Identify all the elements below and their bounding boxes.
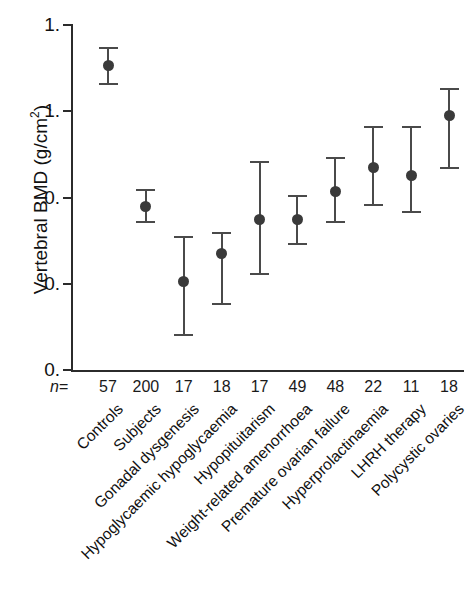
data-point-group <box>277 25 317 372</box>
error-bar-cap-lower <box>402 211 421 213</box>
error-bar-cap-lower <box>212 303 231 305</box>
y-axis-tick-label: 1. <box>44 14 60 36</box>
error-bar-cap-lower <box>250 273 269 275</box>
data-point-marker <box>330 186 341 197</box>
error-bar-cap-lower <box>99 83 118 85</box>
error-bar-cap-lower <box>174 334 193 336</box>
error-bar-cap-lower <box>326 221 345 223</box>
data-point-group <box>391 25 431 372</box>
data-series <box>71 25 464 372</box>
data-point-marker <box>444 110 455 121</box>
sample-size-value: 49 <box>289 378 307 396</box>
data-point-group <box>88 25 128 372</box>
data-point-group <box>315 25 355 372</box>
y-axis-title-superscript: 2 <box>28 111 42 118</box>
data-point-group <box>126 25 166 372</box>
sample-size-value: 17 <box>175 378 193 396</box>
data-point-marker <box>103 60 114 71</box>
data-point-marker <box>178 276 189 287</box>
data-point-group <box>202 25 242 372</box>
sample-size-value: 17 <box>251 378 269 396</box>
sample-size-row: n= 572001718174948221118 <box>0 378 471 398</box>
y-axis-tick-label: 0. <box>44 273 60 295</box>
error-bar-cap-lower <box>440 167 459 169</box>
data-point-marker <box>292 214 303 225</box>
sample-size-value: 11 <box>403 378 420 396</box>
y-axis-tick-label: 0. <box>44 187 60 209</box>
equals-symbol: = <box>59 378 68 395</box>
error-bar-cap-upper <box>402 126 421 128</box>
data-point-group <box>164 25 204 372</box>
y-axis-tick-label: 1. <box>44 100 60 122</box>
error-bar-cap-upper <box>440 88 459 90</box>
plot-area: 1.1.0.0.0. <box>71 25 464 372</box>
sample-size-value: 22 <box>364 378 382 396</box>
x-axis-category-labels: ControlsSubjectsGonadal dysgenesisHypogl… <box>0 400 471 589</box>
error-bar <box>221 232 223 305</box>
data-point-marker <box>140 201 151 212</box>
error-bar-cap-upper <box>174 236 193 238</box>
error-bar <box>448 88 450 170</box>
n-equals-label: n= <box>50 378 68 396</box>
error-bar-cap-lower <box>136 221 155 223</box>
error-bar-cap-upper <box>364 126 383 128</box>
error-bar-cap-upper <box>326 157 345 159</box>
error-bar-cap-upper <box>99 47 118 49</box>
error-bar-cap-upper <box>288 195 307 197</box>
error-bar-cap-upper <box>250 161 269 163</box>
error-bar-cap-upper <box>136 189 155 191</box>
sample-size-value: 48 <box>326 378 344 396</box>
error-bar-cap-upper <box>212 232 231 234</box>
data-point-marker <box>216 248 227 259</box>
sample-size-value: 18 <box>440 378 458 396</box>
sample-size-value: 57 <box>99 378 117 396</box>
chart-figure: Vertebral BMD (g/cm2) 1.1.0.0.0. n= 5720… <box>0 0 471 589</box>
n-symbol: n <box>50 378 59 395</box>
data-point-marker <box>254 214 265 225</box>
error-bar-cap-lower <box>288 243 307 245</box>
sample-size-value: 18 <box>213 378 231 396</box>
error-bar-cap-lower <box>364 204 383 206</box>
sample-size-value: 200 <box>133 378 160 396</box>
data-point-group <box>240 25 280 372</box>
data-point-marker <box>406 170 417 181</box>
data-point-group <box>353 25 393 372</box>
data-point-group <box>429 25 469 372</box>
data-point-marker <box>368 162 379 173</box>
